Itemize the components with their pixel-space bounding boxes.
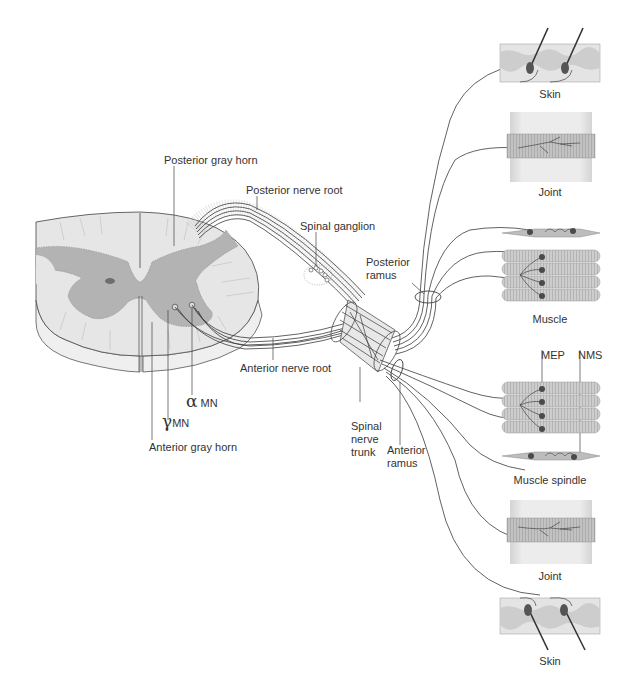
label-posterior-gray-horn: Posterior gray horn — [164, 154, 258, 167]
label-posterior-ramus-line2: ramus — [366, 269, 410, 282]
spinal-cord-cross-section — [36, 212, 262, 372]
caption-muscle-spindle: Muscle spindle — [495, 474, 605, 486]
caption-joint-top: Joint — [495, 186, 605, 198]
gamma-symbol: γ — [162, 411, 172, 431]
caption-skin-top: Skin — [495, 88, 605, 100]
label-nms: NMS — [578, 349, 602, 362]
caption-muscle-top: Muscle — [495, 313, 605, 325]
muscle-spindle-bottom-panel — [502, 382, 600, 460]
label-spinal-nerve-trunk: Spinal nerve trunk — [351, 420, 382, 459]
alpha-mn-text: MN — [201, 397, 218, 409]
label-anterior-ramus-line2: ramus — [387, 457, 426, 470]
joint-bottom-panel — [507, 500, 595, 564]
label-posterior-ramus-line1: Posterior — [366, 256, 410, 269]
label-anterior-ramus-line1: Anterior — [387, 444, 426, 457]
central-canal — [105, 278, 115, 284]
muscle-top-panel — [502, 228, 600, 301]
posterior-ramus — [392, 60, 560, 354]
label-alpha-mn: α MN — [186, 395, 218, 410]
label-anterior-nerve-root: Anterior nerve root — [240, 362, 331, 375]
caption-joint-bottom: Joint — [495, 570, 605, 582]
caption-skin-bottom: Skin — [495, 655, 605, 667]
label-spinal-nerve-trunk-line2: nerve — [351, 433, 382, 446]
spinal-ganglion — [304, 265, 332, 285]
skin-bottom-panel — [500, 598, 600, 650]
label-spinal-nerve-trunk-line3: trunk — [351, 446, 382, 459]
gamma-mn-text: MN — [172, 417, 189, 429]
label-anterior-ramus: Anterior ramus — [387, 444, 426, 470]
label-anterior-gray-horn: Anterior gray horn — [149, 441, 237, 454]
skin-top-panel — [500, 28, 600, 82]
label-posterior-ramus: Posterior ramus — [366, 256, 410, 282]
label-spinal-nerve-trunk-line1: Spinal — [351, 420, 382, 433]
label-posterior-nerve-root: Posterior nerve root — [246, 184, 343, 197]
joint-top-panel — [507, 112, 595, 182]
label-gamma-mn: γMN — [162, 415, 189, 430]
alpha-symbol: α — [186, 391, 197, 411]
label-mep: MEP — [541, 349, 565, 362]
label-spinal-ganglion: Spinal ganglion — [300, 220, 375, 233]
